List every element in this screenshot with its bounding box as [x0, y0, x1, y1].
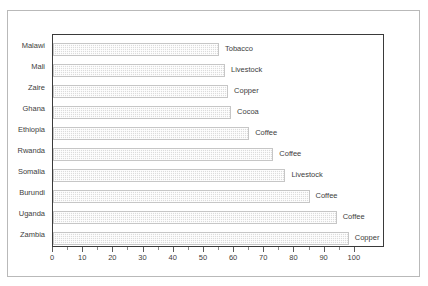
x-tick-minor	[127, 247, 128, 250]
x-tick-major	[112, 247, 113, 252]
plot-area: TobaccoLivestockCopperCocoaCoffeeCoffeeL…	[52, 34, 384, 247]
x-tick-minor	[97, 247, 98, 250]
x-tick-label: 20	[108, 253, 116, 262]
x-tick-major	[52, 247, 53, 252]
x-tick-minor	[188, 247, 189, 250]
bar	[53, 232, 349, 245]
bar-value-label: Coffee	[343, 210, 365, 223]
bar-value-label: Coffee	[279, 147, 301, 160]
x-tick-label: 80	[289, 253, 297, 262]
x-tick-major	[82, 247, 83, 252]
x-tick-major	[324, 247, 325, 252]
x-tick-major	[143, 247, 144, 252]
category-label: Rwanda	[17, 144, 45, 157]
bar	[53, 148, 273, 161]
bar	[53, 127, 249, 140]
category-label: Mali	[31, 60, 45, 73]
x-tick-minor	[278, 247, 279, 250]
bar	[53, 85, 228, 98]
category-label: Uganda	[19, 207, 45, 220]
x-tick-major	[233, 247, 234, 252]
x-tick-major	[354, 247, 355, 252]
x-tick-label: 10	[78, 253, 86, 262]
x-tick-label: 90	[319, 253, 327, 262]
category-label: Burundi	[19, 186, 45, 199]
bar	[53, 106, 231, 119]
bar-row: Coffee	[53, 207, 385, 228]
figure-container: MalawiMaliZaireGhanaEthiopiaRwandaSomali…	[7, 10, 420, 277]
bar	[53, 64, 225, 77]
bar-row: Coffee	[53, 123, 385, 144]
x-tick-label: 70	[259, 253, 267, 262]
bar	[53, 190, 310, 203]
category-label: Ethiopia	[18, 123, 45, 136]
bar-row: Livestock	[53, 165, 385, 186]
bar-value-label: Cocoa	[237, 105, 259, 118]
bar-value-label: Livestock	[231, 63, 262, 76]
x-tick-minor	[339, 247, 340, 250]
x-tick-minor	[248, 247, 249, 250]
x-tick-minor	[67, 247, 68, 250]
bar	[53, 43, 219, 56]
x-tick-label: 50	[199, 253, 207, 262]
bar-row: Coffee	[53, 186, 385, 207]
category-label: Zaire	[28, 81, 45, 94]
bar-row: Coffee	[53, 144, 385, 165]
category-label: Somalia	[18, 165, 45, 178]
bar-value-label: Coffee	[255, 126, 277, 139]
x-tick-label: 60	[229, 253, 237, 262]
bar-value-label: Copper	[234, 84, 259, 97]
bar-row: Tobacco	[53, 39, 385, 60]
x-tick-major	[203, 247, 204, 252]
bar-value-label: Livestock	[291, 168, 322, 181]
x-tick-label: 30	[138, 253, 146, 262]
x-tick-minor	[218, 247, 219, 250]
x-tick-label: 40	[169, 253, 177, 262]
x-tick-major	[173, 247, 174, 252]
x-tick-minor	[309, 247, 310, 250]
x-axis: 0102030405060708090100	[52, 247, 392, 275]
bar-row: Copper	[53, 228, 385, 249]
bar-row: Livestock	[53, 60, 385, 81]
bar-value-label: Coffee	[316, 189, 338, 202]
bar-row: Cocoa	[53, 102, 385, 123]
bar	[53, 211, 337, 224]
x-tick-label: 0	[50, 253, 54, 262]
bar-value-label: Tobacco	[225, 42, 253, 55]
bar-value-label: Copper	[355, 231, 380, 244]
x-tick-major	[293, 247, 294, 252]
x-tick-minor	[158, 247, 159, 250]
bar	[53, 169, 285, 182]
category-label: Zambia	[20, 228, 45, 241]
x-tick-label: 100	[348, 253, 361, 262]
category-label: Malawi	[22, 39, 45, 52]
category-label: Ghana	[22, 102, 45, 115]
bar-row: Copper	[53, 81, 385, 102]
category-axis: MalawiMaliZaireGhanaEthiopiaRwandaSomali…	[8, 34, 49, 247]
x-tick-major	[263, 247, 264, 252]
